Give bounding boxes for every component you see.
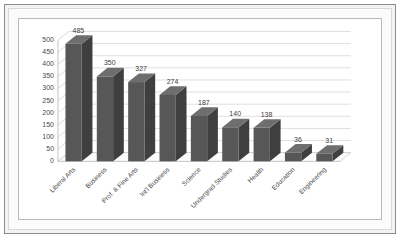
- bar-value-label: 138: [261, 111, 273, 118]
- x-axis-label: Int'l Business: [138, 165, 171, 197]
- y-axis-tick-label: 450: [42, 48, 54, 55]
- bar-column: [97, 68, 124, 161]
- bar-value-label: 187: [198, 99, 210, 106]
- bar-column: [160, 86, 187, 161]
- y-axis-tick-label: 350: [42, 72, 54, 79]
- y-axis-tick-label: 100: [42, 133, 54, 140]
- x-axis-label: Health: [246, 166, 265, 184]
- y-axis-tick-labels: 050100150200250300350400450500: [42, 36, 54, 164]
- chart-outer-frame: 050100150200250300350400450500 485350327…: [4, 4, 396, 234]
- bar-value-label: 31: [325, 137, 333, 144]
- bar-value-label: 350: [104, 59, 116, 66]
- bar-value-label: 140: [229, 110, 241, 117]
- bar-value-label: 485: [73, 27, 85, 34]
- y-axis-tick-label: 400: [42, 60, 54, 67]
- x-axis-category-labels: Liberal ArtsBusinessProf. & Fine ArtsInt…: [48, 165, 328, 210]
- bar-chart: 050100150200250300350400450500 485350327…: [19, 19, 381, 219]
- x-axis-label: Education: [270, 166, 296, 192]
- bar-column: [128, 73, 155, 161]
- y-axis-tick-label: 50: [46, 145, 54, 152]
- chart-inner-frame: 050100150200250300350400450500 485350327…: [18, 18, 382, 220]
- y-axis-tick-label: 0: [50, 157, 54, 164]
- x-axis-label: Science: [180, 166, 202, 188]
- bar-column: [222, 119, 249, 162]
- y-axis-tick-label: 300: [42, 84, 54, 91]
- bar-value-label: 327: [135, 65, 147, 72]
- chart-svg: 050100150200250300350400450500 485350327…: [19, 19, 381, 219]
- y-axis-tick-label: 250: [42, 97, 54, 104]
- bar-column: [65, 35, 92, 161]
- bar-value-label: 36: [294, 136, 302, 143]
- chart-middle-frame: 050100150200250300350400450500 485350327…: [8, 8, 392, 230]
- bar-column: [191, 107, 218, 161]
- y-axis-tick-label: 200: [42, 109, 54, 116]
- bar-column: [254, 119, 281, 161]
- x-axis-label: Liberal Arts: [48, 165, 77, 193]
- y-axis-tick-label: 150: [42, 121, 54, 128]
- x-axis-label: Business: [84, 165, 108, 189]
- y-axis-tick-label: 500: [42, 36, 54, 43]
- bar-value-label: 274: [167, 78, 179, 85]
- x-axis-label: Engineering: [297, 166, 328, 196]
